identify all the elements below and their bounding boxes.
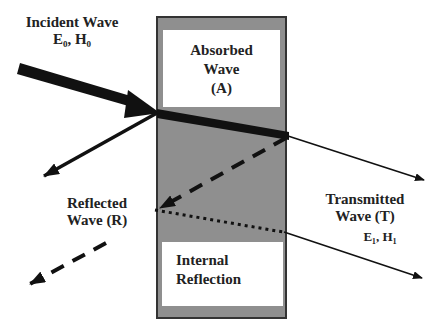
incident-title: Incident Wave <box>2 14 142 31</box>
reflected-arrow <box>44 113 157 176</box>
absorbed-line2: Wave <box>163 60 280 79</box>
incident-arrow <box>17 63 160 118</box>
reflected-line1: Reflected <box>52 195 142 212</box>
shielding-diagram: Incident Wave E₀, H₀ Absorbed Wave (A) R… <box>0 0 441 330</box>
absorbed-line3: (A) <box>163 79 280 98</box>
transmitted-line2: Wave (T) <box>305 208 425 225</box>
internal-line1: Internal <box>176 251 241 270</box>
transmitted-wave-label: Transmitted Wave (T) <box>305 191 425 225</box>
transmitted-line1: Transmitted <box>305 191 425 208</box>
transmitted-fields: E₁, H₁ <box>350 228 410 245</box>
reflected-wave-label: Reflected Wave (R) <box>52 195 142 229</box>
incident-fields: E₀, H₀ <box>2 31 142 48</box>
absorbed-line1: Absorbed <box>163 41 280 60</box>
reflected-line2: Wave (R) <box>52 212 142 229</box>
internal-line2: Reflection <box>176 270 241 289</box>
internal-reflection-label: Internal Reflection <box>176 251 241 289</box>
absorbed-wave-label: Absorbed Wave (A) <box>163 41 280 98</box>
re-reflected-dashed-arrow <box>30 243 106 284</box>
transmitted-arrow <box>288 136 424 180</box>
incident-wave-label: Incident Wave E₀, H₀ <box>2 14 142 48</box>
